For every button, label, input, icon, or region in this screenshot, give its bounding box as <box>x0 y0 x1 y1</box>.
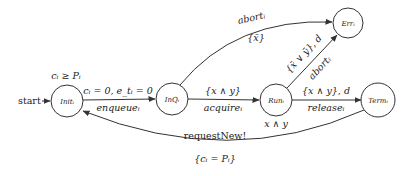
state-label: Runᵢ <box>267 97 284 105</box>
edge-action-label: acquireᵢ <box>204 102 242 113</box>
state-invariant: cᵢ ≥ Pᵢ <box>51 70 81 81</box>
edge-run-to-err: {x̄ ∨ ȳ}, d abortᵢ <box>283 32 337 88</box>
edge-update-label: {cᵢ = Pᵢ} <box>194 153 236 164</box>
state-run: Runᵢ x ∧ y <box>260 84 292 129</box>
edge-run-to-term: {x ∧ y}, d releaseᵢ <box>292 85 361 113</box>
state-invariant: x ∧ y <box>264 118 288 129</box>
edge-guard-label: {x̄} <box>247 32 264 43</box>
edge-guard-label: cᵢ = 0, e_tᵢ = 0 <box>83 85 152 97</box>
edge-inq-to-run: {x ∧ y} acquireᵢ <box>188 85 259 113</box>
edge-action-label: abortᵢ <box>237 9 267 26</box>
edge-init-to-inq: cᵢ = 0, e_tᵢ = 0 enqueueᵢ <box>83 85 155 113</box>
edge-action-label: enqueueᵢ <box>96 102 139 113</box>
edge-guard-label: {x ∧ y} <box>205 85 241 96</box>
edge-action-label: requestNew! <box>184 130 247 141</box>
state-label: Termᵢ <box>368 97 388 105</box>
automaton-diagram: start cᵢ = 0, e_tᵢ = 0 enqueueᵢ {x ∧ y} … <box>0 0 417 176</box>
edge-action-label: releaseᵢ <box>308 102 345 113</box>
edge-term-to-init: requestNew! {cᵢ = Pᵢ} <box>83 110 364 164</box>
state-term: Termᵢ <box>361 83 395 117</box>
state-inq: InQᵢ <box>156 83 188 115</box>
edge-action-label: abortᵢ <box>306 54 333 82</box>
state-label: InQᵢ <box>164 96 180 104</box>
state-label: Initᵢ <box>59 98 74 106</box>
state-label: Errᵢ <box>340 20 355 28</box>
start-label: start <box>18 95 41 106</box>
edge-guard-label: {x ∧ y}, d <box>302 85 350 96</box>
state-init: Initᵢ cᵢ ≥ Pᵢ <box>51 70 83 117</box>
start-arrow: start <box>18 95 50 106</box>
state-err: Errᵢ <box>333 8 363 38</box>
